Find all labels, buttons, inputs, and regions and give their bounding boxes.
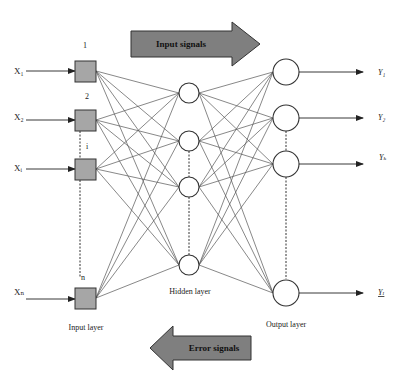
output-node-1: Y₁ <box>273 59 385 85</box>
input-label-x1: X₁ <box>14 66 24 76</box>
input-neuron <box>75 61 96 82</box>
output-label-y2: Y₂ <box>378 113 385 122</box>
hidden-output-connections <box>199 72 273 293</box>
input-node-2: X₂ 2 <box>14 92 96 131</box>
output-node-l: Yₗ <box>273 280 384 306</box>
input-index-1: 1 <box>83 41 87 50</box>
input-layer: X₁ 1 X₂ 2 Xᵢ i Xₙ n Input layer <box>14 41 104 332</box>
output-neuron <box>273 105 299 131</box>
output-node-k: Yₖ <box>273 151 386 177</box>
output-label-yk: Yₖ <box>379 153 386 162</box>
output-node-2: Y₂ <box>273 105 385 131</box>
input-index-n: n <box>81 273 85 282</box>
input-index-2: 2 <box>85 92 89 101</box>
hidden-neuron <box>179 131 199 151</box>
hidden-neuron <box>179 255 199 275</box>
output-label-y1: Y₁ <box>378 68 385 77</box>
input-layer-title: Input layer <box>69 323 104 332</box>
input-node-n: Xₙ n <box>14 273 96 309</box>
input-index-i: i <box>86 142 89 151</box>
output-layer-title: Output layer <box>266 320 307 329</box>
output-neuron <box>273 59 299 85</box>
neural-network-diagram: Input signals Error signals X₁ 1 <box>0 0 401 383</box>
input-signals-arrow: Input signals <box>131 22 260 66</box>
input-neuron <box>75 110 96 131</box>
output-layer: Y₁ Y₂ Yₖ Yₗ Output layer <box>266 59 387 329</box>
input-label-x2: X₂ <box>14 112 24 122</box>
input-hidden-connections <box>96 71 179 298</box>
hidden-neuron <box>179 177 199 197</box>
hidden-neuron <box>179 83 199 103</box>
input-label-xn: Xₙ <box>14 287 24 297</box>
input-node-1: X₁ 1 <box>14 41 96 82</box>
input-node-i: Xᵢ i <box>14 142 96 180</box>
output-label-yl: Yₗ <box>378 288 384 297</box>
input-neuron <box>75 288 96 309</box>
input-label-xi: Xᵢ <box>14 163 22 173</box>
output-neuron <box>273 280 299 306</box>
error-signals-arrow: Error signals <box>150 326 251 370</box>
input-neuron <box>75 159 96 180</box>
output-neuron <box>273 151 299 177</box>
error-signals-label: Error signals <box>189 343 240 353</box>
input-signals-label: Input signals <box>156 39 206 49</box>
hidden-layer-title: Hidden layer <box>169 287 211 296</box>
